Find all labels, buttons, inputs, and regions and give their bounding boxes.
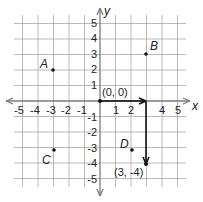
point-label-D: D [120,137,129,151]
origin-label: (0, 0) [102,86,128,98]
y-tick: 2 [91,63,97,75]
point-D: D [120,137,134,152]
x-tick: -3 [46,104,56,116]
origin-point [98,99,102,103]
x-tick: 2 [128,104,134,116]
point-label-C: C [42,153,51,167]
y-tick: -5 [87,173,97,185]
y-tick: 4 [91,32,97,44]
point-label-A: A [39,57,48,71]
y-tick: -4 [87,157,97,169]
point-label-B: B [150,39,158,53]
point-A: A [39,57,55,72]
y-tick: -1 [87,111,97,123]
y-tick: 1 [91,79,97,91]
y-tick: 3 [91,48,97,60]
x-axis-label: x [191,99,199,113]
x-tick-labels: -5 -4 -3 -2 -1 1 2 4 5 [14,104,181,116]
x-tick: 5 [175,104,181,116]
x-tick: 4 [159,104,165,116]
coordinate-plane: x y -5 -4 -3 -2 -1 1 2 4 5 5 4 3 2 1 -1 … [0,0,203,202]
end-point [144,162,148,166]
end-point-label: (3, -4) [114,166,143,178]
x-tick: -1 [77,104,87,116]
x-tick: -4 [30,104,40,116]
x-tick: -5 [14,104,24,116]
x-tick: -2 [61,104,71,116]
x-tick: 1 [113,104,119,116]
y-axis-label: y [103,4,111,18]
y-tick: -2 [87,126,97,138]
y-tick: 5 [91,17,97,29]
movement-path [100,98,149,164]
y-tick: -3 [87,142,97,154]
